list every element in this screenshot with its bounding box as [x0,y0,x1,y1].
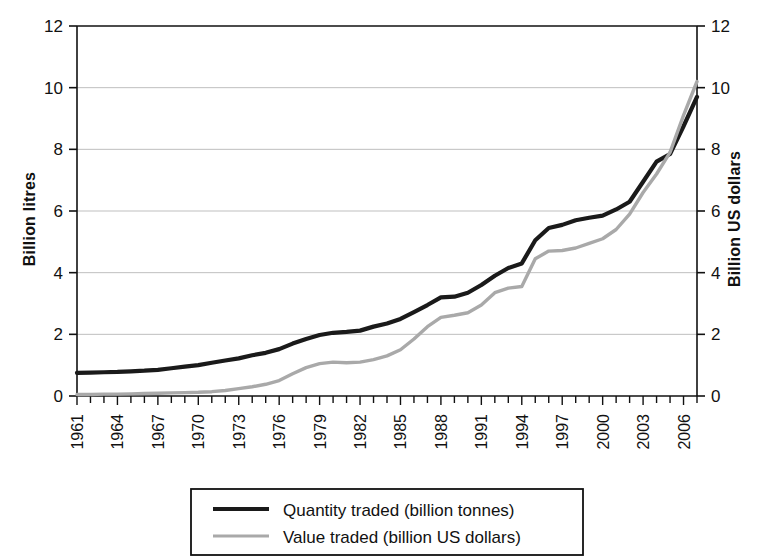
y-tick-label-right: 4 [711,264,720,283]
y-tick-label-left: 4 [54,264,63,283]
y-tick-label-left: 0 [54,387,63,406]
y-tick-label-right: 0 [711,387,720,406]
y-axis-right-title: Billion US dollars [726,119,744,319]
x-tick-label: 1970 [190,414,207,450]
x-tick-label: 1991 [473,414,490,450]
y-tick-label-left: 12 [44,17,63,36]
y-tick-label-right: 8 [711,140,720,159]
x-axis-ticks [77,396,697,405]
data-series-group [77,82,697,395]
y-tick-label-left: 10 [44,79,63,98]
legend-label: Value traded (billion US dollars) [283,528,521,547]
y-tick-label-left: 8 [54,140,63,159]
x-tick-label: 1997 [554,414,571,450]
x-tick-label: 1994 [514,414,531,450]
x-tick-label: 1976 [271,414,288,450]
x-tick-label: 1985 [392,414,409,450]
x-tick-label: 1964 [109,414,126,450]
y-tick-label-right: 10 [711,79,730,98]
y-tick-label-right: 12 [711,17,730,36]
y-axis-right-ticks: 024681012 [697,17,730,406]
y-axis-left-ticks: 024681012 [44,17,77,406]
series-line-1 [77,97,697,373]
x-tick-label: 1973 [231,414,248,450]
y-tick-label-right: 6 [711,202,720,221]
x-tick-label: 1979 [312,414,329,450]
legend-label: Quantity traded (billion tonnes) [283,501,515,520]
x-tick-label: 1961 [69,414,86,450]
x-tick-label: 2003 [635,414,652,450]
x-tick-label: 1967 [150,414,167,450]
series-line-2 [77,82,697,395]
chart-container: Billion litres Billion US dollars 024681… [0,0,765,559]
line-chart-plot: 024681012 024681012 19611964196719701973… [0,0,765,559]
y-axis-left-title: Billion litres [21,119,39,319]
x-tick-label: 1988 [433,414,450,450]
y-tick-label-right: 2 [711,325,720,344]
gridlines-group [77,88,697,335]
x-tick-label: 1982 [352,414,369,450]
y-tick-label-left: 6 [54,202,63,221]
y-tick-label-left: 2 [54,325,63,344]
x-tick-label: 2000 [595,414,612,450]
x-axis-tick-labels: 1961196419671970197319761979198219851988… [69,414,693,450]
chart-legend: Quantity traded (billion tonnes)Value tr… [191,489,583,555]
x-tick-label: 2006 [676,414,693,450]
